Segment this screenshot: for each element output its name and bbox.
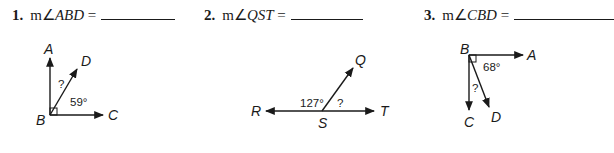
- label-r: R: [251, 103, 261, 119]
- label-t: T: [380, 103, 390, 119]
- label-a: A: [43, 41, 53, 57]
- label-d: D: [491, 109, 501, 125]
- given-angle: 127°: [300, 97, 324, 109]
- label-b: B: [36, 112, 45, 128]
- label-a: A: [526, 47, 536, 63]
- label-q: Q: [355, 52, 366, 68]
- given-angle: 59°: [70, 96, 87, 108]
- unknown-angle: ?: [472, 82, 478, 94]
- label-s: S: [318, 115, 328, 131]
- unknown-angle: ?: [58, 78, 64, 90]
- label-c: C: [108, 107, 119, 123]
- label-c: C: [464, 114, 475, 130]
- label-b: B: [460, 41, 469, 57]
- unknown-angle: ?: [337, 97, 343, 109]
- label-d: D: [81, 53, 91, 69]
- given-angle: 68°: [483, 61, 500, 73]
